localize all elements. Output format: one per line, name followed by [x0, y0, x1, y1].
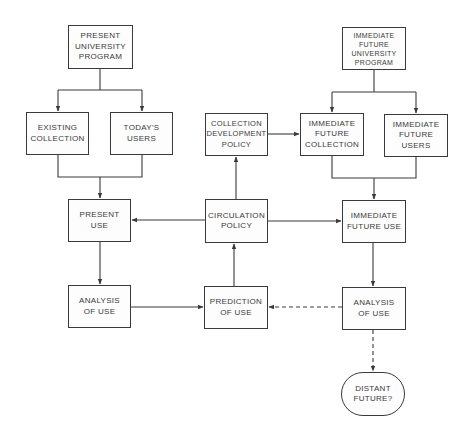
node-immediate-future-university-program: IMMEDIATE FUTURE UNIVERSITY PROGRAM — [342, 27, 406, 70]
edge-program-split — [58, 69, 142, 90]
node-immediate-future-use: IMMEDIATE FUTURE USE — [342, 200, 406, 243]
node-immediate-future-users: IMMEDIATE FUTURE USERS — [384, 114, 448, 157]
node-analysis-of-use-future: ANALYSIS OF USE — [342, 287, 406, 330]
node-todays-users: TODAY'S USERS — [110, 112, 173, 155]
node-prediction-of-use: PREDICTION OF USE — [204, 286, 268, 329]
edge-merge-future — [332, 156, 416, 178]
edge-merge-present — [58, 155, 142, 177]
node-present-university-program: PRESENT UNIVERSITY PROGRAM — [68, 25, 133, 69]
flowchart-canvas: PRESENT UNIVERSITY PROGRAM EXISTING COLL… — [0, 0, 471, 442]
node-present-use: PRESENT USE — [68, 199, 131, 242]
node-collection-development-policy: COLLECTION DEVELOPMENT POLICY — [205, 113, 268, 156]
node-circulation-policy: CIRCULATION POLICY — [205, 199, 268, 243]
node-existing-collection: EXISTING COLLECTION — [26, 112, 89, 155]
edge-future-program-split — [332, 70, 416, 92]
node-distant-future: DISTANT FUTURE? — [341, 372, 405, 416]
node-analysis-of-use-present: ANALYSIS OF USE — [68, 285, 131, 328]
node-immediate-future-collection: IMMEDIATE FUTURE COLLECTION — [300, 113, 364, 156]
